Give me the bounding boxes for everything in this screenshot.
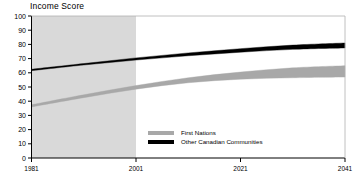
chart-legend: First NationsOther Canadian Communities (148, 128, 263, 146)
x-tick-label: 2001 (129, 165, 143, 172)
legend-swatch-icon (148, 140, 174, 144)
legend-swatch-icon (148, 131, 174, 135)
legend-label: Other Canadian Communities (181, 137, 263, 146)
income-score-chart: Income Score 1009080706050403020100 1981… (0, 0, 359, 180)
x-tick-label: 2021 (233, 165, 247, 172)
legend-item: First Nations (148, 128, 263, 137)
legend-label: First Nations (181, 128, 216, 137)
legend-item: Other Canadian Communities (148, 137, 263, 146)
x-tick-label: 2041 (338, 165, 352, 172)
x-axis-tick-labels: 1981200120212041 (0, 0, 359, 180)
x-tick-label: 1981 (24, 165, 38, 172)
